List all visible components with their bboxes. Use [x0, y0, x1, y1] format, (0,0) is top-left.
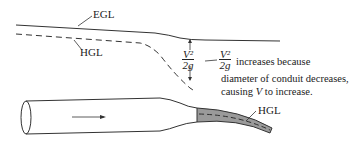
hgl-upper-label: HGL	[80, 47, 103, 58]
egl-label: EGL	[93, 9, 114, 20]
annotation-line1: increases because	[236, 55, 310, 68]
velocity-head-fraction: V² 2g	[182, 49, 194, 70]
pipe-inlet	[21, 101, 31, 134]
annotation-fraction: V² 2g	[219, 49, 231, 70]
large-pipe	[26, 98, 197, 134]
annotation-line3: causing V to increase.	[221, 85, 313, 98]
velocity-head-denominator: 2g	[182, 60, 194, 70]
egl-line	[16, 25, 280, 41]
hgl-dashed-line	[16, 34, 196, 92]
hgl-lower-label: HGL	[258, 105, 281, 116]
annotation-line2: diameter of conduit decreases,	[221, 72, 349, 85]
diagram-canvas	[0, 0, 355, 141]
